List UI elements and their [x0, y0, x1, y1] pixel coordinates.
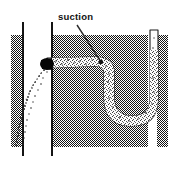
- main-hatched-block: [53, 35, 148, 147]
- left-hatched-slab: [11, 35, 22, 147]
- left-vertical-wall-line: [22, 22, 24, 156]
- right-vertical-wall-line: [51, 22, 53, 156]
- suction-diagram-figure: suction: [0, 0, 173, 172]
- right-hatched-slab: [157, 35, 168, 147]
- suction-label: suction: [58, 11, 93, 22]
- suction-leader-arrowhead: [99, 60, 103, 64]
- nozzle-body: [41, 58, 53, 70]
- diagram-canvas: suction: [0, 0, 173, 172]
